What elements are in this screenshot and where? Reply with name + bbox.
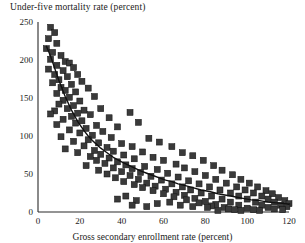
data-point xyxy=(108,135,114,141)
data-point xyxy=(177,202,183,208)
data-point xyxy=(87,154,93,160)
data-point xyxy=(73,89,79,95)
data-point xyxy=(202,173,208,179)
data-point xyxy=(213,176,219,182)
data-point xyxy=(200,157,206,163)
data-point xyxy=(60,68,66,74)
data-point xyxy=(81,143,87,149)
data-point xyxy=(232,207,238,213)
data-point xyxy=(207,184,213,190)
data-point xyxy=(112,175,118,181)
data-point xyxy=(140,149,146,155)
data-point xyxy=(81,107,87,113)
data-point xyxy=(246,180,252,186)
data-point xyxy=(129,144,135,150)
data-point xyxy=(58,52,64,58)
data-point xyxy=(110,148,116,154)
data-point xyxy=(98,106,104,112)
data-point xyxy=(66,127,72,133)
data-point xyxy=(106,115,112,121)
data-point xyxy=(209,193,215,199)
data-point xyxy=(186,178,192,184)
fitted-trend-curve xyxy=(46,46,289,204)
data-point xyxy=(154,201,160,207)
data-point xyxy=(79,118,85,124)
data-point xyxy=(230,172,236,178)
data-point xyxy=(96,167,102,173)
data-point xyxy=(265,204,271,210)
data-point xyxy=(54,40,60,46)
data-point xyxy=(77,130,83,136)
data-point xyxy=(62,146,68,152)
data-point xyxy=(165,170,171,176)
data-point xyxy=(75,150,81,156)
data-point xyxy=(150,154,156,160)
data-point xyxy=(250,207,256,213)
data-point xyxy=(173,161,179,167)
data-point xyxy=(50,80,56,86)
data-point xyxy=(64,74,70,80)
data-point xyxy=(215,207,221,213)
data-point xyxy=(110,165,116,171)
data-point xyxy=(161,157,167,163)
data-point xyxy=(234,184,240,190)
data-point xyxy=(52,30,58,36)
data-point xyxy=(244,205,250,211)
data-point xyxy=(227,199,233,205)
data-point xyxy=(257,207,263,213)
data-point xyxy=(202,198,208,204)
data-point xyxy=(223,180,229,186)
data-point xyxy=(104,171,110,177)
data-point xyxy=(161,191,167,197)
data-point xyxy=(83,163,89,169)
data-point xyxy=(94,157,100,163)
x-tick-120: 120 xyxy=(282,216,296,226)
data-point xyxy=(250,190,256,196)
data-point-markers xyxy=(43,24,292,213)
data-point xyxy=(135,119,141,125)
data-point xyxy=(140,185,146,191)
x-tick-100: 100 xyxy=(240,216,254,226)
data-point xyxy=(66,94,72,100)
data-point xyxy=(146,135,152,141)
data-point xyxy=(154,166,160,172)
data-point xyxy=(123,193,129,199)
data-point xyxy=(75,71,81,77)
data-point xyxy=(190,153,196,159)
chart-figure: Under-five mortality rate (percent) 0501… xyxy=(0,0,305,243)
data-point xyxy=(121,152,127,158)
data-point xyxy=(71,103,77,109)
data-point xyxy=(104,144,110,150)
data-point xyxy=(94,122,100,128)
scatter-plot: 050100150200250 020406080100120 xyxy=(0,0,305,243)
data-point xyxy=(184,197,190,203)
data-point xyxy=(242,187,248,193)
data-point xyxy=(87,112,93,118)
x-tick-20: 20 xyxy=(75,216,85,226)
data-point xyxy=(179,150,185,156)
x-tick-40: 40 xyxy=(117,216,127,226)
data-point xyxy=(129,202,135,208)
y-axis-tick-labels: 050100150200250 xyxy=(20,17,34,217)
data-point xyxy=(211,163,217,169)
data-point xyxy=(71,138,77,144)
data-point xyxy=(119,141,125,147)
data-point xyxy=(167,199,173,205)
data-point xyxy=(131,156,137,162)
data-point xyxy=(60,116,66,122)
data-point xyxy=(238,176,244,182)
y-tick-250: 250 xyxy=(20,17,34,27)
data-point xyxy=(121,179,127,185)
x-tick-60: 60 xyxy=(159,216,169,226)
data-point xyxy=(91,93,97,99)
data-point xyxy=(54,90,60,96)
data-point xyxy=(225,206,231,212)
y-tick-200: 200 xyxy=(20,55,34,65)
data-point xyxy=(219,196,225,202)
data-point xyxy=(79,78,85,84)
x-axis-tick-labels: 020406080100120 xyxy=(36,216,297,226)
data-point xyxy=(280,207,286,213)
data-point xyxy=(127,173,133,179)
data-point xyxy=(91,147,97,153)
data-point xyxy=(45,36,51,42)
